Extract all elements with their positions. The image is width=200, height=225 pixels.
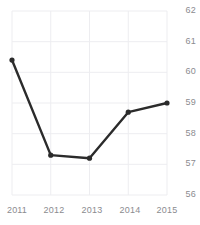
y-axis-tick-59: 59 [186, 98, 196, 107]
x-axis-tick-2013: 2013 [82, 206, 103, 215]
y-axis-tick-58: 58 [186, 129, 196, 138]
chart-plot-area [0, 0, 200, 225]
x-axis-tick-2015: 2015 [157, 206, 178, 215]
line-chart: 62 61 60 59 58 57 56 2011 2012 2013 2014… [0, 0, 200, 225]
y-axis-tick-60: 60 [186, 67, 196, 76]
y-axis-tick-57: 57 [186, 159, 196, 168]
data-point-2014 [126, 110, 131, 115]
data-point-2015 [164, 100, 169, 105]
x-axis-tick-2012: 2012 [44, 206, 65, 215]
data-point-2012 [48, 153, 53, 158]
data-point-2011 [9, 57, 14, 62]
data-point-2013 [87, 156, 92, 161]
y-axis-tick-56: 56 [186, 190, 196, 199]
y-axis-tick-62: 62 [186, 6, 196, 15]
x-axis-tick-2014: 2014 [120, 206, 141, 215]
x-axis-tick-2011: 2011 [7, 206, 27, 215]
y-axis-tick-61: 61 [186, 37, 196, 46]
